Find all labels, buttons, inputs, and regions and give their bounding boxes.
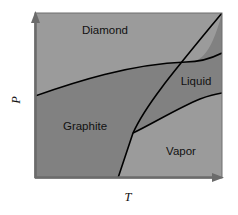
temperature-axis-label: T (125, 190, 133, 204)
phase-diagram-svg: Diamond Graphite Liquid Vapor P T (0, 0, 238, 215)
region-label-vapor: Vapor (166, 145, 196, 157)
region-label-liquid: Liquid (181, 75, 212, 87)
pressure-axis-label: P (9, 96, 23, 105)
phase-diagram-figure: Diamond Graphite Liquid Vapor P T (0, 0, 238, 215)
region-label-graphite: Graphite (63, 120, 107, 132)
region-label-diamond: Diamond (82, 24, 128, 36)
